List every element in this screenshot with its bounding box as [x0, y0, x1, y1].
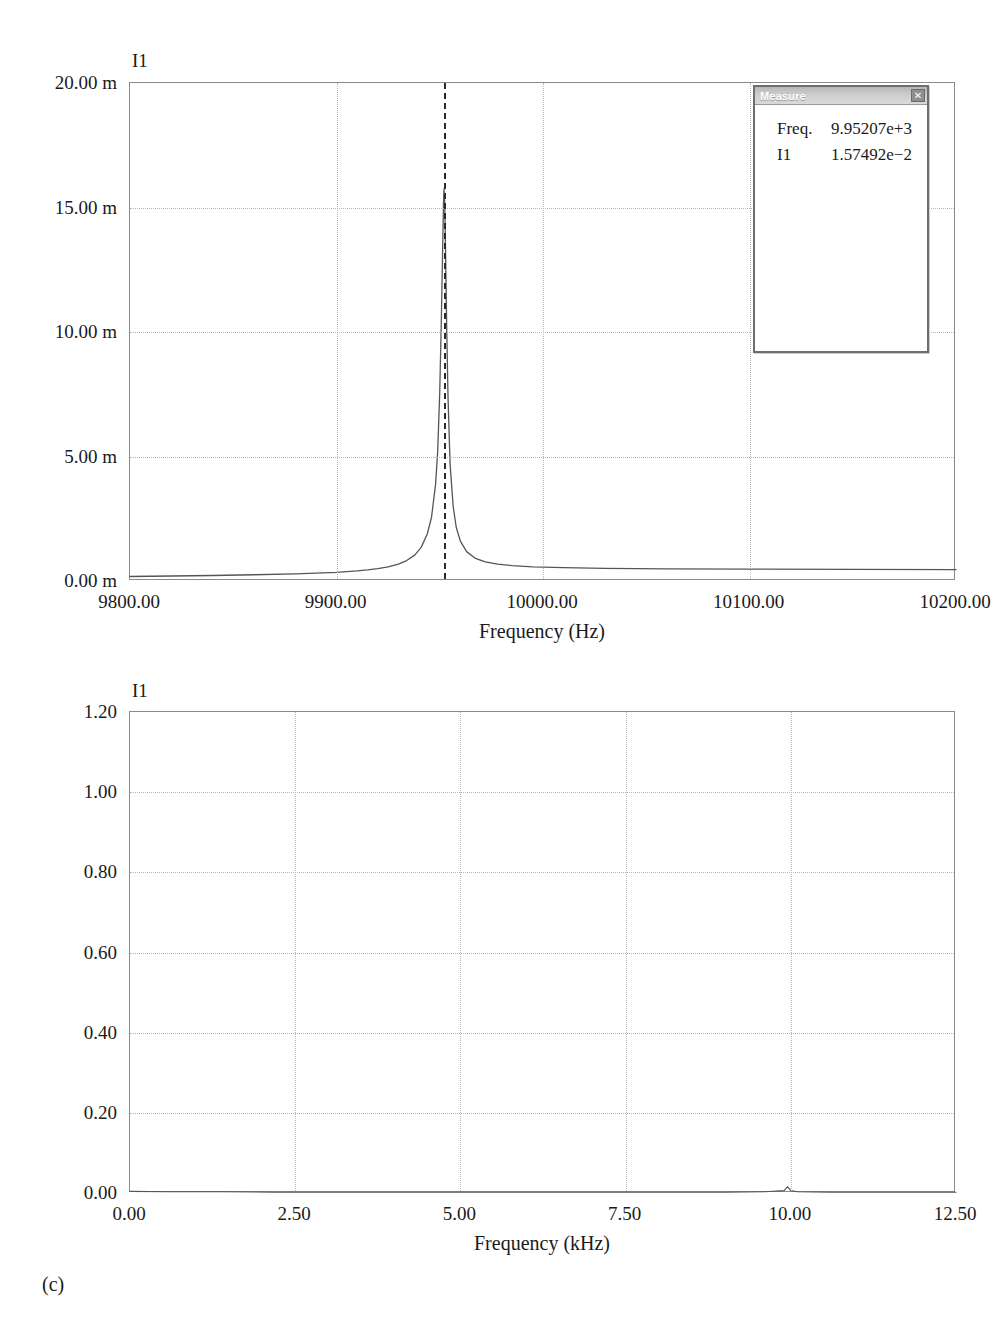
bottom-x-tick-label: 2.50 [214, 1204, 374, 1223]
bottom-chart-x-axis-title: Frequency (kHz) [129, 1232, 955, 1255]
top-y-tick-label: 10.00 m [0, 322, 117, 341]
measure-dialog-title: Measure [760, 90, 806, 102]
top-gridline-vertical [337, 83, 338, 579]
bottom-gridline-vertical [460, 712, 461, 1191]
bottom-x-tick-label: 10.00 [710, 1204, 870, 1223]
top-cursor-line[interactable] [444, 83, 446, 579]
top-gridline-horizontal [130, 457, 954, 458]
bottom-y-tick-label: 0.40 [0, 1023, 117, 1042]
bottom-y-tick-label: 0.20 [0, 1103, 117, 1122]
measure-dialog-body: Freq.9.95207e+3I11.57492e−2 [755, 105, 927, 165]
bottom-gridline-vertical [626, 712, 627, 1191]
bottom-y-tick-label: 1.20 [0, 702, 117, 721]
measure-dialog-titlebar[interactable]: Measure ✕ [755, 87, 927, 105]
bottom-x-tick-label: 7.50 [545, 1204, 705, 1223]
top-chart-x-axis-title: Frequency (Hz) [129, 620, 955, 643]
bottom-gridline-horizontal [130, 1113, 954, 1114]
bottom-gridline-horizontal [130, 1033, 954, 1034]
top-y-tick-label: 20.00 m [0, 73, 117, 92]
bottom-chart-plot-area [129, 711, 955, 1192]
top-x-tick-label: 10100.00 [669, 592, 829, 611]
measure-dialog[interactable]: Measure ✕ Freq.9.95207e+3I11.57492e−2 [753, 85, 929, 353]
measure-dialog-row-value: 1.57492e−2 [831, 145, 912, 165]
bottom-y-tick-label: 1.00 [0, 782, 117, 801]
bottom-y-tick-label: 0.00 [0, 1183, 117, 1202]
measure-dialog-row: Freq.9.95207e+3 [755, 119, 927, 139]
close-icon[interactable]: ✕ [911, 89, 925, 102]
top-x-tick-label: 10000.00 [462, 592, 622, 611]
bottom-x-tick-label: 12.50 [875, 1204, 998, 1223]
panel-caption: (c) [42, 1273, 64, 1296]
bottom-y-tick-label: 0.80 [0, 862, 117, 881]
bottom-gridline-horizontal [130, 872, 954, 873]
bottom-gridline-vertical [791, 712, 792, 1191]
top-x-tick-label: 9800.00 [49, 592, 209, 611]
top-y-tick-label: 15.00 m [0, 198, 117, 217]
bottom-gridline-horizontal [130, 792, 954, 793]
top-y-tick-label: 5.00 m [0, 447, 117, 466]
top-gridline-vertical [750, 83, 751, 579]
top-gridline-vertical [543, 83, 544, 579]
top-y-tick-label: 0.00 m [0, 571, 117, 590]
measure-dialog-row: I11.57492e−2 [755, 145, 927, 165]
bottom-x-tick-label: 0.00 [49, 1204, 209, 1223]
bottom-x-tick-label: 5.00 [379, 1204, 539, 1223]
measure-dialog-row-key: Freq. [755, 119, 831, 139]
bottom-gridline-vertical [295, 712, 296, 1191]
top-x-tick-label: 9900.00 [256, 592, 416, 611]
bottom-gridline-horizontal [130, 953, 954, 954]
top-x-tick-label: 10200.00 [875, 592, 998, 611]
top-chart-series-label: I1 [132, 50, 148, 72]
measure-dialog-row-key: I1 [755, 145, 831, 165]
measure-dialog-row-value: 9.95207e+3 [831, 119, 912, 139]
bottom-y-tick-label: 0.60 [0, 943, 117, 962]
bottom-chart-series-label: I1 [132, 680, 148, 702]
